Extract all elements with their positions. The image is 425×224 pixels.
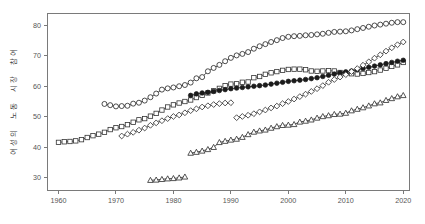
data-point-marker <box>240 85 245 90</box>
data-point-marker <box>136 100 141 105</box>
data-point-marker <box>378 63 383 68</box>
data-point-marker <box>251 46 256 51</box>
y-tick-label: 50 <box>33 112 41 121</box>
data-point-marker <box>137 118 141 122</box>
data-point-marker <box>303 68 307 72</box>
data-point-marker <box>229 82 233 86</box>
data-point-marker <box>378 68 382 72</box>
data-point-marker <box>257 74 261 78</box>
data-point-marker <box>205 69 210 74</box>
data-point-marker <box>269 82 274 87</box>
data-point-marker <box>188 93 193 98</box>
x-tick-label: 2020 <box>395 196 411 205</box>
data-point-marker <box>309 32 314 37</box>
data-point-marker <box>263 83 268 88</box>
data-point-marker <box>355 27 360 32</box>
y-axis-title-char: 장 <box>9 76 18 83</box>
data-point-marker <box>125 122 129 126</box>
y-tick-label: 40 <box>33 143 41 152</box>
y-axis-title-char: 참 <box>9 58 18 65</box>
data-point-marker <box>252 84 257 89</box>
data-point-marker <box>131 120 135 124</box>
data-point-marker <box>395 59 400 64</box>
data-point-marker <box>326 68 330 72</box>
data-point-marker <box>182 83 187 88</box>
data-point-marker <box>234 82 238 86</box>
y-axis-title-char: 동 <box>9 103 18 110</box>
data-point-marker <box>372 69 376 73</box>
data-point-marker <box>303 77 308 82</box>
data-point-marker <box>269 71 273 75</box>
data-point-marker <box>246 85 251 90</box>
data-point-marker <box>401 58 406 63</box>
data-point-marker <box>74 139 78 143</box>
data-point-marker <box>223 59 228 64</box>
data-point-marker <box>384 61 389 66</box>
y-axis-title-char: 여 <box>9 49 18 56</box>
data-point-marker <box>280 80 285 85</box>
data-point-marker <box>240 51 245 56</box>
data-point-marker <box>91 133 95 137</box>
data-point-marker <box>315 69 319 73</box>
data-point-marker <box>234 53 239 58</box>
data-point-marker <box>188 80 193 85</box>
data-point-marker <box>367 70 371 74</box>
y-tick-label: 30 <box>33 173 41 182</box>
data-point-marker <box>142 98 147 103</box>
data-point-marker <box>97 132 101 136</box>
data-point-marker <box>171 85 176 90</box>
data-point-marker <box>384 66 388 70</box>
y-axis-title-char: 여 <box>9 148 18 155</box>
data-point-marker <box>119 124 123 128</box>
data-point-marker <box>372 64 377 69</box>
data-point-marker <box>125 103 130 108</box>
data-point-marker <box>234 86 239 91</box>
data-point-marker <box>366 65 371 70</box>
data-point-marker <box>372 23 377 28</box>
data-point-marker <box>384 21 389 26</box>
x-tick-label: 1970 <box>108 196 124 205</box>
data-point-marker <box>326 73 331 78</box>
data-point-marker <box>142 116 146 120</box>
data-point-marker <box>108 103 113 108</box>
data-point-marker <box>177 101 181 105</box>
data-point-marker <box>269 39 274 44</box>
y-axis-title-char: 성 <box>9 139 18 146</box>
data-point-marker <box>217 62 222 67</box>
data-point-marker <box>303 33 308 38</box>
y-axis-title-char: 노 <box>9 112 18 119</box>
data-point-marker <box>102 101 107 106</box>
data-point-marker <box>108 127 112 131</box>
data-point-marker <box>292 34 297 39</box>
data-point-marker <box>309 76 314 81</box>
data-point-marker <box>148 114 152 118</box>
data-point-marker <box>165 86 170 91</box>
y-tick-label: 80 <box>33 21 41 30</box>
data-point-marker <box>286 67 290 71</box>
data-point-marker <box>338 29 343 34</box>
data-point-marker <box>321 69 325 73</box>
data-point-marker <box>315 75 320 80</box>
data-point-marker <box>154 91 159 96</box>
data-point-marker <box>280 68 284 72</box>
data-point-marker <box>85 135 89 139</box>
data-point-marker <box>395 20 400 25</box>
y-tick-label: 60 <box>33 82 41 91</box>
data-point-marker <box>297 33 302 38</box>
data-point-marker <box>200 91 205 96</box>
line-chart: 3040506070801960197019801990200020102020… <box>0 0 425 224</box>
data-point-marker <box>361 25 366 30</box>
data-point-marker <box>263 72 267 76</box>
data-point-marker <box>62 140 66 144</box>
y-axis-title-char: 의 <box>9 130 18 137</box>
data-point-marker <box>171 103 175 107</box>
data-point-marker <box>321 74 326 79</box>
data-point-marker <box>223 87 228 92</box>
data-point-marker <box>56 140 60 144</box>
data-point-marker <box>274 38 279 43</box>
data-point-marker <box>200 75 205 80</box>
data-point-marker <box>315 32 320 37</box>
data-point-marker <box>332 29 337 34</box>
data-point-marker <box>349 28 354 33</box>
data-point-marker <box>194 92 199 97</box>
